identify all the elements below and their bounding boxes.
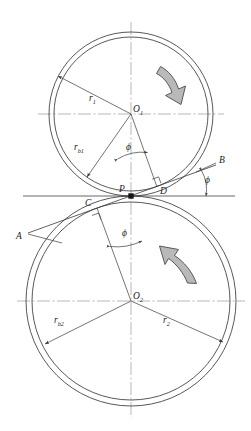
rb1-dimension-line: [87, 114, 131, 177]
label-d: D: [159, 186, 167, 196]
centerlines: [17, 22, 245, 418]
label-c: C: [85, 198, 92, 208]
label-phi-upper: ϕ: [126, 142, 131, 152]
label-a: A: [15, 231, 22, 241]
lower-angle-arc: [110, 241, 142, 247]
label-r2: r2: [163, 315, 170, 327]
label-phi-lower: ϕ: [122, 228, 127, 238]
label-p: P: [118, 184, 125, 194]
pitch-point-marker: [128, 193, 133, 198]
label-b: B: [219, 155, 225, 165]
label-phi-line: ϕ: [205, 175, 210, 185]
leader-line-b: [196, 163, 216, 172]
label-rb2: rb2: [54, 315, 64, 327]
label-o1: O1: [133, 104, 143, 116]
line-of-action: [28, 165, 216, 233]
r1-dimension-line: [58, 76, 131, 114]
rotation-arrow-upper: [157, 67, 186, 105]
o2-to-c-line: [97, 208, 131, 301]
label-r1: r1: [89, 93, 96, 105]
label-rb1: rb1: [74, 142, 84, 154]
o1-to-d-line: [131, 114, 157, 187]
diagram-canvas: O1 O2 P D C B A r1 rb1 rb2 r2 ϕ ϕ ϕ: [0, 0, 251, 431]
gear-mesh-diagram: O1 O2 P D C B A r1 rb1 rb2 r2 ϕ ϕ ϕ: [0, 0, 251, 431]
r2-dimension-line: [131, 301, 223, 342]
upper-dimension-lines: [58, 76, 157, 187]
rotation-arrow-lower: [160, 246, 197, 284]
lower-dimension-lines: [45, 208, 223, 344]
upper-angle-arc: [118, 152, 148, 159]
label-o2: O2: [133, 291, 143, 303]
